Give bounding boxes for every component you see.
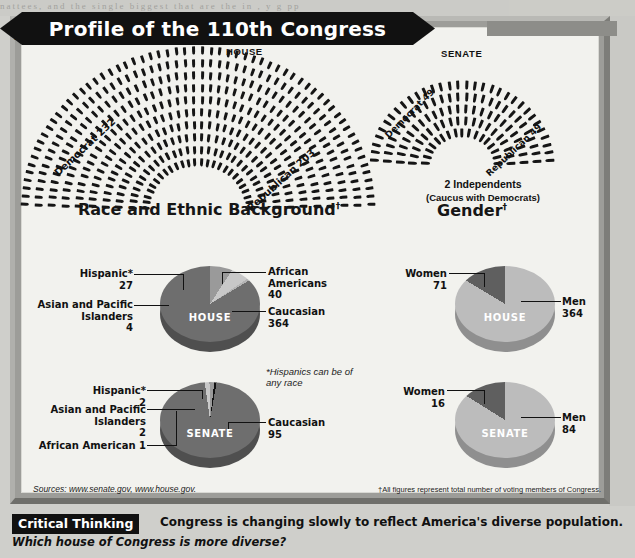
- seat-marker: [367, 203, 375, 206]
- seat-marker: [133, 160, 141, 168]
- leader-line: [183, 274, 184, 290]
- seat-marker: [296, 182, 305, 187]
- gender-heading-dagger: †: [503, 202, 508, 212]
- seat-marker: [227, 139, 233, 148]
- seat-marker: [167, 99, 172, 108]
- seat-marker: [311, 189, 320, 193]
- seat-marker: [89, 190, 98, 195]
- seat-marker: [542, 142, 551, 147]
- seat-marker: [274, 143, 282, 151]
- seat-marker: [248, 137, 255, 146]
- seat-marker: [82, 167, 91, 173]
- senate-seating-chart: [362, 60, 562, 172]
- seat-marker: [439, 107, 445, 116]
- seat-marker: [136, 110, 143, 119]
- seat-marker: [234, 63, 239, 72]
- seat-marker: [149, 78, 155, 87]
- seat-marker: [313, 129, 322, 136]
- seat-marker: [326, 149, 335, 155]
- seat-marker: [287, 86, 294, 95]
- seat-marker: [81, 101, 89, 109]
- seat-marker: [265, 151, 273, 159]
- seat-marker: [91, 182, 100, 187]
- seat-marker: [447, 81, 452, 90]
- value: 71: [433, 280, 447, 291]
- seat-marker: [333, 111, 342, 118]
- leader-line: [222, 272, 266, 273]
- seat-marker: [488, 85, 494, 94]
- seat-marker: [335, 172, 344, 177]
- banner-body: Profile of the 110th Congress: [0, 12, 435, 45]
- senate-independents-count: 2 Independents: [408, 178, 558, 190]
- seat-marker: [47, 148, 56, 154]
- seat-marker: [169, 124, 174, 133]
- seat-marker: [321, 173, 330, 178]
- seat-marker: [177, 135, 182, 144]
- seat-marker: [192, 83, 195, 91]
- seat-marker: [456, 105, 460, 114]
- seat-marker: [85, 116, 93, 124]
- seat-marker: [322, 98, 330, 106]
- seat-marker: [54, 111, 63, 118]
- seat-marker: [456, 81, 460, 90]
- seat-marker: [105, 183, 114, 188]
- seat-marker: [371, 150, 380, 155]
- seat-marker: [207, 121, 211, 130]
- seat-marker: [149, 146, 156, 155]
- seat-marker: [100, 161, 109, 168]
- seat-marker: [80, 174, 89, 179]
- seat-marker: [34, 203, 42, 206]
- seat-marker: [200, 121, 203, 130]
- seat-marker: [200, 83, 203, 91]
- seat-marker: [185, 134, 189, 143]
- seat-marker: [116, 77, 123, 86]
- seat-marker: [120, 104, 127, 113]
- seat-marker: [307, 174, 316, 179]
- seat-marker: [149, 65, 154, 74]
- seat-marker: [101, 86, 108, 95]
- seat-marker: [119, 137, 127, 145]
- label: Women: [405, 268, 447, 279]
- seat-marker: [175, 72, 179, 81]
- seat-marker: [490, 148, 499, 155]
- seat-marker: [244, 119, 251, 128]
- seat-marker: [279, 148, 288, 155]
- seat-marker: [85, 82, 93, 90]
- seat-marker: [540, 134, 549, 140]
- seat-marker: [65, 142, 74, 149]
- seat-marker: [240, 90, 246, 99]
- seat-marker: [239, 103, 245, 112]
- seat-marker: [184, 109, 188, 118]
- seat-marker: [49, 118, 58, 125]
- seat-marker: [143, 150, 151, 158]
- seat-marker: [263, 172, 272, 179]
- seat-marker: [266, 118, 274, 127]
- seat-marker: [104, 155, 113, 162]
- seat-marker: [209, 84, 213, 93]
- seat-marker: [386, 143, 395, 149]
- sources-line: Sources: www.senate.gov, www.house.gov.: [33, 484, 196, 494]
- seat-marker: [47, 204, 55, 207]
- race-senate-pie-chart: SENATE: [160, 382, 260, 472]
- seat-marker: [472, 81, 477, 90]
- seat-marker: [232, 88, 237, 97]
- seat-marker: [113, 143, 121, 151]
- seat-marker: [237, 116, 243, 125]
- seat-marker: [77, 181, 86, 186]
- seat-marker: [199, 158, 203, 167]
- seat-marker: [34, 195, 43, 199]
- seat-marker: [323, 120, 332, 127]
- seat-marker: [61, 196, 70, 200]
- seat-marker: [299, 131, 308, 139]
- seat-marker: [291, 105, 299, 113]
- seat-marker: [338, 118, 347, 125]
- seat-marker: [402, 137, 411, 144]
- page-bleed-right: [609, 16, 635, 506]
- seat-marker: [91, 110, 99, 118]
- seat-marker: [303, 82, 311, 90]
- seat-marker: [94, 91, 102, 99]
- seat-marker: [180, 160, 185, 169]
- seat-marker: [131, 57, 137, 66]
- seat-marker: [300, 96, 308, 104]
- seat-marker: [453, 129, 458, 138]
